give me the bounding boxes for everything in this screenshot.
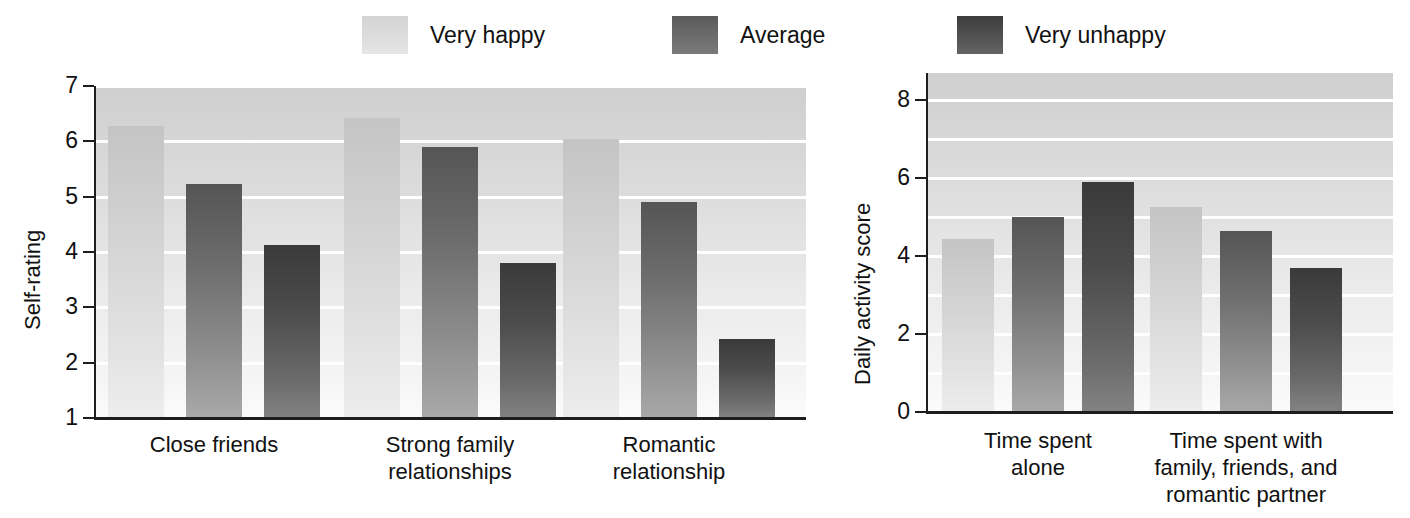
category-label-line: Romantic — [623, 432, 716, 457]
y-axis-tick — [915, 177, 926, 179]
x-axis-line — [94, 417, 806, 420]
y-axis-tick-label: 1 — [36, 406, 78, 429]
gridline — [96, 140, 806, 143]
x-axis-category-label: Romanticrelationship — [554, 432, 784, 486]
category-label-line: relationship — [613, 459, 726, 484]
category-label-line: Close friends — [150, 432, 278, 457]
x-axis-category-label: Strong familyrelationships — [335, 432, 565, 486]
x-axis-category-label: Close friends — [99, 432, 329, 459]
category-label-line: relationships — [388, 459, 512, 484]
y-axis-tick-label: 2 — [36, 351, 78, 374]
x-axis-category-label: Time spentalone — [931, 428, 1146, 482]
y-axis-title-daily-activity: Daily activity score — [850, 203, 876, 385]
bar — [108, 126, 164, 418]
bar — [186, 184, 242, 418]
y-axis-tick — [83, 251, 94, 253]
category-label-line: romantic partner — [1166, 482, 1326, 507]
y-axis-tick-label: 8 — [868, 88, 910, 111]
x-axis-category-label: Time spent withfamily, friends, androman… — [1139, 428, 1354, 508]
self-rating-chart: Self-rating 1234567Close friendsStrong f… — [0, 0, 830, 518]
bar — [563, 139, 619, 418]
y-axis-tick — [83, 196, 94, 198]
y-axis-tick-label: 6 — [868, 166, 910, 189]
y-axis-line — [926, 73, 928, 414]
bar — [1220, 231, 1272, 412]
bar — [1290, 268, 1342, 412]
category-label-line: alone — [1011, 455, 1065, 480]
y-axis-tick — [915, 333, 926, 335]
y-axis-line — [94, 86, 96, 420]
bar — [641, 202, 697, 418]
category-label-line: family, friends, and — [1154, 455, 1337, 480]
y-axis-tick-label: 4 — [36, 240, 78, 263]
gridline — [96, 85, 806, 88]
gridline — [928, 99, 1393, 102]
category-label-line: Time spent with — [1169, 428, 1322, 453]
x-axis-line — [926, 411, 1393, 414]
y-axis-tick — [83, 362, 94, 364]
bar — [942, 239, 994, 412]
category-label-line: Strong family — [386, 432, 514, 457]
bar — [500, 263, 556, 418]
bar — [264, 245, 320, 418]
y-axis-tick — [915, 255, 926, 257]
bar — [719, 339, 775, 418]
y-axis-tick — [915, 411, 926, 413]
y-axis-tick-label: 2 — [868, 322, 910, 345]
bar — [1082, 182, 1134, 412]
plot-area-self-rating — [96, 86, 806, 418]
plot-area-daily-activity — [928, 73, 1393, 412]
y-axis-tick — [915, 99, 926, 101]
y-axis-tick-label: 0 — [868, 400, 910, 423]
y-axis-tick-label: 5 — [36, 185, 78, 208]
bar — [422, 147, 478, 418]
y-axis-tick-label: 7 — [36, 74, 78, 97]
y-axis-tick-label: 6 — [36, 129, 78, 152]
y-axis-tick-label: 4 — [868, 244, 910, 267]
bar — [1012, 217, 1064, 412]
gridline — [928, 138, 1393, 141]
y-axis-tick — [83, 85, 94, 87]
y-axis-tick-label: 3 — [36, 295, 78, 318]
bar — [1150, 207, 1202, 412]
y-axis-tick — [83, 306, 94, 308]
gridline — [928, 177, 1393, 180]
daily-activity-chart: Daily activity score 02468Time spentalon… — [830, 0, 1410, 518]
category-label-line: Time spent — [984, 428, 1092, 453]
y-axis-tick — [83, 140, 94, 142]
y-axis-tick — [83, 417, 94, 419]
bar — [344, 118, 400, 418]
